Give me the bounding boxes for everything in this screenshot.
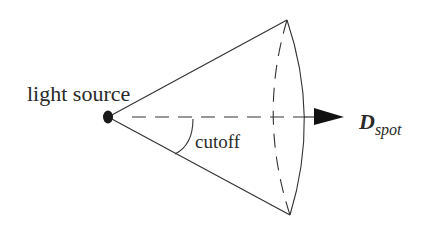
cutoff-angle-arc <box>175 119 193 154</box>
light-source-label: light source <box>27 81 130 106</box>
direction-label: Dspot <box>358 109 402 139</box>
cone-top-edge <box>110 20 287 116</box>
cutoff-label: cutoff <box>195 131 241 152</box>
light-source-dot <box>103 111 113 124</box>
direction-arrow-head <box>314 108 344 125</box>
spotlight-diagram: light source cutoff Dspot <box>0 0 439 231</box>
direction-label-main: D <box>358 109 375 134</box>
direction-label-sub: spot <box>375 121 402 139</box>
